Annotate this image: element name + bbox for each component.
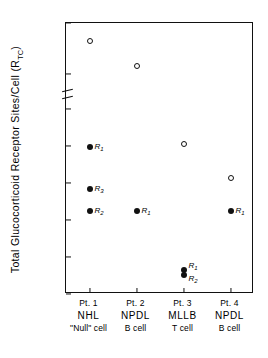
data-point-open (134, 63, 140, 69)
y-axis-tick (66, 293, 71, 294)
x-axis-tick (89, 288, 90, 293)
y-axis-title-subscript: TC (16, 50, 25, 60)
data-point-label: R1 (142, 205, 151, 216)
y-axis-tick (66, 182, 71, 183)
data-point-filled (181, 272, 187, 278)
y-axis-title: Total Glucocorticoid Receptor Sites/Cell… (9, 10, 24, 310)
y-axis-tick (66, 73, 71, 74)
y-axis-tick (66, 219, 71, 220)
data-point-filled (87, 186, 93, 192)
data-point-label: R1 (236, 205, 245, 216)
figure-scatter-plot: Total Glucocorticoid Receptor Sites/Cell… (0, 0, 268, 358)
y-axis-tick (66, 145, 71, 146)
data-point-filled (228, 208, 234, 214)
y-axis-title-tail: ) (9, 46, 21, 50)
y-axis-tick (66, 22, 71, 23)
y-axis-break-mark (62, 89, 73, 93)
data-point-open (228, 175, 234, 181)
data-point-open (181, 141, 187, 147)
x-axis-tick (230, 288, 231, 293)
data-point-label: R3 (95, 183, 104, 194)
data-point-label: R1 (95, 142, 104, 153)
data-point-filled (87, 144, 93, 150)
data-point-filled (134, 208, 140, 214)
plot-area: 18,00016,00010,0008,0006,0004,0002,0000 … (65, 22, 253, 293)
point-label-subscript: 2 (194, 278, 197, 284)
x-axis-category-label: Pt. 4NPDLB cell (197, 298, 263, 333)
data-point-open (87, 38, 93, 44)
point-label-subscript: 1 (147, 210, 150, 216)
point-label-subscript: 2 (100, 210, 103, 216)
data-point-label: R2 (189, 273, 198, 284)
x-label-diagnosis: NPDL (197, 310, 263, 321)
point-label-subscript: 3 (100, 188, 103, 194)
data-point-label: R1 (189, 261, 198, 272)
y-axis-tick (66, 108, 71, 109)
point-label-subscript: 1 (194, 265, 197, 271)
y-axis-title-main: Total Glucocorticoid Receptor Sites/Cell… (9, 60, 21, 273)
data-point-filled (87, 208, 93, 214)
point-label-subscript: 1 (100, 146, 103, 152)
x-label-patient: Pt. 4 (197, 298, 263, 308)
data-point-label: R2 (95, 205, 104, 216)
x-axis-tick (136, 288, 137, 293)
x-axis-tick (183, 288, 184, 293)
y-axis-tick (66, 256, 71, 257)
point-label-subscript: 1 (241, 210, 244, 216)
x-label-celltype: B cell (197, 323, 263, 333)
y-axis-break-mark (62, 96, 73, 100)
